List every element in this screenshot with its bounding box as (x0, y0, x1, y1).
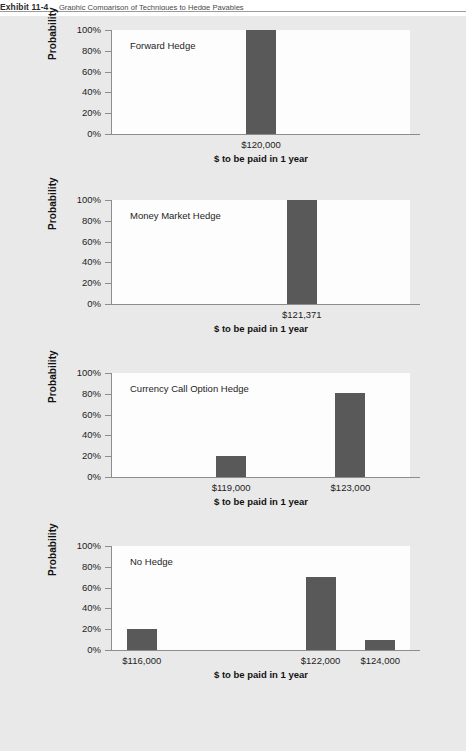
y-axis-tick (105, 629, 111, 630)
y-axis-tick (105, 242, 111, 243)
bar (287, 200, 317, 304)
y-axis-tick (105, 283, 111, 284)
y-axis-tick-text: 100% (61, 368, 101, 378)
y-axis-tick (105, 113, 111, 114)
bar (216, 456, 246, 477)
y-axis-tick (105, 92, 111, 93)
y-axis-tick (105, 567, 111, 568)
bar (246, 30, 276, 134)
y-axis-tick-text: 80% (61, 46, 101, 56)
y-axis-tick (105, 415, 111, 416)
y-axis-tick-text: 100% (61, 541, 101, 551)
exhibit-caption: Exhibit 11-4 Graphic Comparison of Techn… (0, 0, 466, 10)
y-axis-tick (105, 30, 111, 31)
y-axis-line (111, 200, 112, 304)
exhibit-number: Exhibit 11-4 (0, 2, 48, 10)
y-axis-tick (105, 262, 111, 263)
x-axis-title: $ to be paid in 1 year (112, 669, 410, 680)
y-axis-tick (105, 394, 111, 395)
y-axis-title: Probability (47, 7, 58, 60)
y-axis-line (111, 546, 112, 650)
chart-title: Money Market Hedge (130, 210, 221, 221)
chart-title: Currency Call Option Hedge (130, 383, 249, 394)
y-axis-tick-text: 20% (61, 278, 101, 288)
y-axis-line (111, 373, 112, 477)
y-axis-tick (105, 608, 111, 609)
y-axis-tick (105, 51, 111, 52)
y-axis-tick (105, 650, 111, 651)
x-axis-category-label: $116,000 (122, 655, 161, 666)
x-axis-category-label: $119,000 (212, 482, 251, 493)
bar (365, 640, 395, 650)
x-axis-title: $ to be paid in 1 year (112, 496, 410, 507)
x-axis-line (108, 304, 420, 305)
chart-title: Forward Hedge (130, 40, 195, 51)
y-axis-tick-text: 60% (61, 583, 101, 593)
plot-area: Forward Hedge (112, 30, 410, 134)
y-axis-tick-text: 100% (61, 195, 101, 205)
y-axis-tick-text: 100% (61, 25, 101, 35)
y-axis-tick (105, 546, 111, 547)
y-axis-tick (105, 221, 111, 222)
y-axis-tick-text: 0% (61, 129, 101, 139)
x-axis-category-label: $121,371 (282, 309, 322, 320)
y-axis-tick (105, 435, 111, 436)
y-axis-tick-text: 60% (61, 237, 101, 247)
y-axis-tick-text: 80% (61, 562, 101, 572)
y-axis-tick (105, 588, 111, 589)
y-axis-tick-text: 40% (61, 603, 101, 613)
exhibit-title: Graphic Comparison of Techniques to Hedg… (59, 3, 244, 10)
y-axis-title: Probability (47, 177, 58, 230)
x-axis-category-label: $120,000 (241, 139, 281, 150)
y-axis-tick-text: 0% (61, 472, 101, 482)
x-axis-line (108, 134, 420, 135)
x-axis-category-label: $122,000 (301, 655, 341, 666)
y-axis-tick (105, 200, 111, 201)
bar (127, 629, 157, 650)
y-axis-tick-text: 60% (61, 67, 101, 77)
plot-area: Money Market Hedge (112, 200, 410, 304)
bar (335, 393, 365, 477)
y-axis-tick (105, 373, 111, 374)
y-axis-tick-text: 80% (61, 216, 101, 226)
chart-title: No Hedge (130, 556, 173, 567)
y-axis-tick-text: 80% (61, 389, 101, 399)
x-axis-line (108, 650, 420, 651)
x-axis-title: $ to be paid in 1 year (112, 153, 410, 164)
y-axis-title: Probability (47, 350, 58, 403)
x-axis-category-label: $123,000 (331, 482, 371, 493)
y-axis-tick (105, 456, 111, 457)
y-axis-tick (105, 477, 111, 478)
y-axis-tick-text: 40% (61, 257, 101, 267)
y-axis-tick-text: 0% (61, 299, 101, 309)
y-axis-tick-text: 40% (61, 87, 101, 97)
y-axis-tick (105, 304, 111, 305)
bar (306, 577, 336, 650)
y-axis-tick-text: 20% (61, 451, 101, 461)
x-axis-line (108, 477, 420, 478)
y-axis-tick-text: 20% (61, 108, 101, 118)
y-axis-tick-text: 40% (61, 430, 101, 440)
y-axis-title: Probability (47, 523, 58, 576)
y-axis-tick-text: 60% (61, 410, 101, 420)
y-axis-tick (105, 134, 111, 135)
exhibit-divider (0, 11, 466, 12)
y-axis-tick-text: 0% (61, 645, 101, 655)
y-axis-line (111, 30, 112, 134)
y-axis-tick-text: 20% (61, 624, 101, 634)
x-axis-title: $ to be paid in 1 year (112, 323, 410, 334)
y-axis-tick (105, 72, 111, 73)
plot-area: No Hedge (112, 546, 410, 650)
x-axis-category-label: $124,000 (360, 655, 400, 666)
plot-area: Currency Call Option Hedge (112, 373, 410, 477)
